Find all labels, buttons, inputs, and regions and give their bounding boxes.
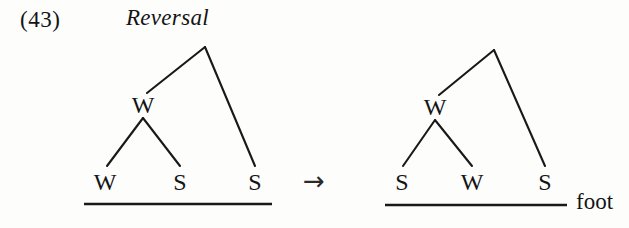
output-leaf-2: W	[461, 170, 484, 194]
output-tree-branches	[0, 0, 629, 228]
foot-label: foot	[576, 190, 613, 213]
figure-canvas: (43) Reversal W W S S → W S W S foot	[0, 0, 629, 228]
output-branch-root-to-w	[439, 50, 494, 95]
output-branch-w-to-w	[435, 120, 472, 166]
output-leaf-1: S	[395, 170, 408, 194]
output-node-w: W	[424, 95, 447, 119]
output-leaf-3: S	[538, 170, 551, 194]
output-branch-w-to-s	[403, 120, 435, 166]
output-branch-root-to-s	[494, 50, 545, 166]
